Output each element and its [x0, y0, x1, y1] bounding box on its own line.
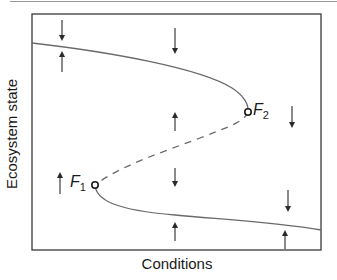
f2-label: F2: [253, 102, 269, 118]
lower-stable-branch: [95, 185, 321, 230]
y-axis-label-text: Ecosystem state: [3, 44, 20, 224]
x-axis-label: Conditions: [0, 255, 337, 272]
f1-point-marker: [92, 182, 98, 188]
f1-label-letter: F: [70, 173, 80, 190]
f1-label: F1: [70, 174, 86, 190]
upper-stable-branch: [32, 43, 248, 112]
f2-label-letter: F: [253, 101, 263, 118]
f2-point-marker: [245, 109, 251, 115]
f1-label-subscript: 1: [80, 181, 86, 193]
bifurcation-diagram: [0, 0, 337, 280]
f2-label-subscript: 2: [263, 109, 269, 121]
unstable-middle-branch: [95, 112, 248, 185]
